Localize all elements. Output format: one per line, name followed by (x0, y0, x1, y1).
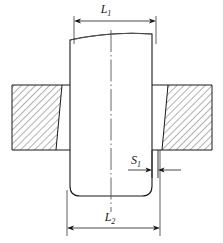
left-hatched-block (12, 85, 62, 150)
L1-arrow-left (74, 19, 81, 24)
right-hatched-block (162, 85, 212, 150)
right-block-hatch-fill (162, 85, 212, 150)
L2-arrow-right (153, 226, 160, 231)
technical-drawing-canvas: L1 S1 L2 (0, 0, 223, 243)
L1-label: L1 (100, 2, 112, 18)
left-block-hatch-fill (12, 85, 62, 150)
L2-arrow-left (67, 226, 74, 231)
cross-section-figure: L1 S1 L2 (0, 0, 223, 243)
L1-arrow-right (149, 19, 156, 24)
L2-label: L2 (104, 210, 116, 226)
